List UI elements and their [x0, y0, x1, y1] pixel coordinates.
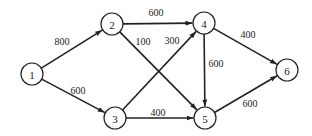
edge-2-4 — [123, 23, 193, 24]
node-5: 5 — [194, 107, 216, 129]
edge-weight-label: 400 — [241, 29, 256, 40]
node-label: 6 — [284, 65, 290, 77]
arrow-icon — [41, 30, 102, 68]
edge-1-2 — [41, 30, 102, 68]
node-2: 2 — [101, 13, 123, 35]
node-6: 6 — [276, 59, 298, 81]
node-4: 4 — [193, 12, 215, 34]
node-label: 4 — [201, 18, 207, 30]
edge-4-5 — [204, 34, 205, 107]
edge-weight-label: 300 — [165, 35, 180, 46]
edge-weight-label: 100 — [136, 36, 151, 47]
edge-weight-label: 800 — [55, 36, 70, 47]
edge-weight-label: 600 — [209, 58, 224, 69]
node-label: 3 — [112, 113, 118, 125]
node-label: 5 — [202, 113, 208, 125]
graph-svg: 800600600100300400600400600 123456 — [0, 0, 312, 136]
arrow-icon — [123, 23, 193, 24]
edge-weight-label: 600 — [149, 7, 164, 18]
node-1: 1 — [21, 63, 43, 85]
arrow-icon — [204, 34, 205, 107]
edge-weight-label: 600 — [243, 98, 258, 109]
node-3: 3 — [104, 107, 126, 129]
edge-weight-label: 400 — [151, 107, 166, 118]
node-label: 1 — [29, 69, 35, 81]
edge-weight-label: 600 — [71, 85, 86, 96]
node-label: 2 — [109, 19, 115, 31]
graph-diagram: 800600600100300400600400600 123456 — [0, 0, 312, 136]
